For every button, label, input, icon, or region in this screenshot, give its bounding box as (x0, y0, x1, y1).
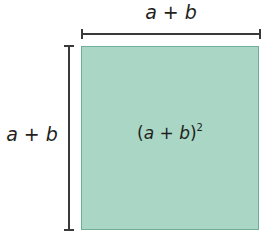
left-dimension-top-tick (64, 45, 74, 47)
left-dimension-line (68, 46, 70, 231)
open-paren: ( (137, 123, 144, 143)
square-area: (a + b)2 (81, 46, 259, 230)
var-b: b (179, 123, 190, 143)
exponent: 2 (197, 122, 203, 133)
var-b: b (46, 123, 58, 145)
left-dimension-label: a + b (0, 122, 64, 146)
close-paren: ) (190, 123, 197, 143)
var-b: b (185, 1, 197, 23)
var-a: a (144, 123, 154, 143)
top-dimension-label: a + b (81, 0, 261, 24)
var-a: a (6, 123, 18, 145)
plus-sign: + (157, 1, 185, 23)
plus-sign: + (154, 123, 179, 143)
top-dimension-line (82, 33, 260, 35)
var-a: a (145, 1, 157, 23)
left-dimension-bottom-tick (64, 229, 74, 231)
top-dimension-right-tick (259, 29, 261, 39)
area-label: (a + b)2 (82, 123, 258, 143)
plus-sign: + (18, 123, 46, 145)
top-dimension-left-tick (81, 29, 83, 39)
